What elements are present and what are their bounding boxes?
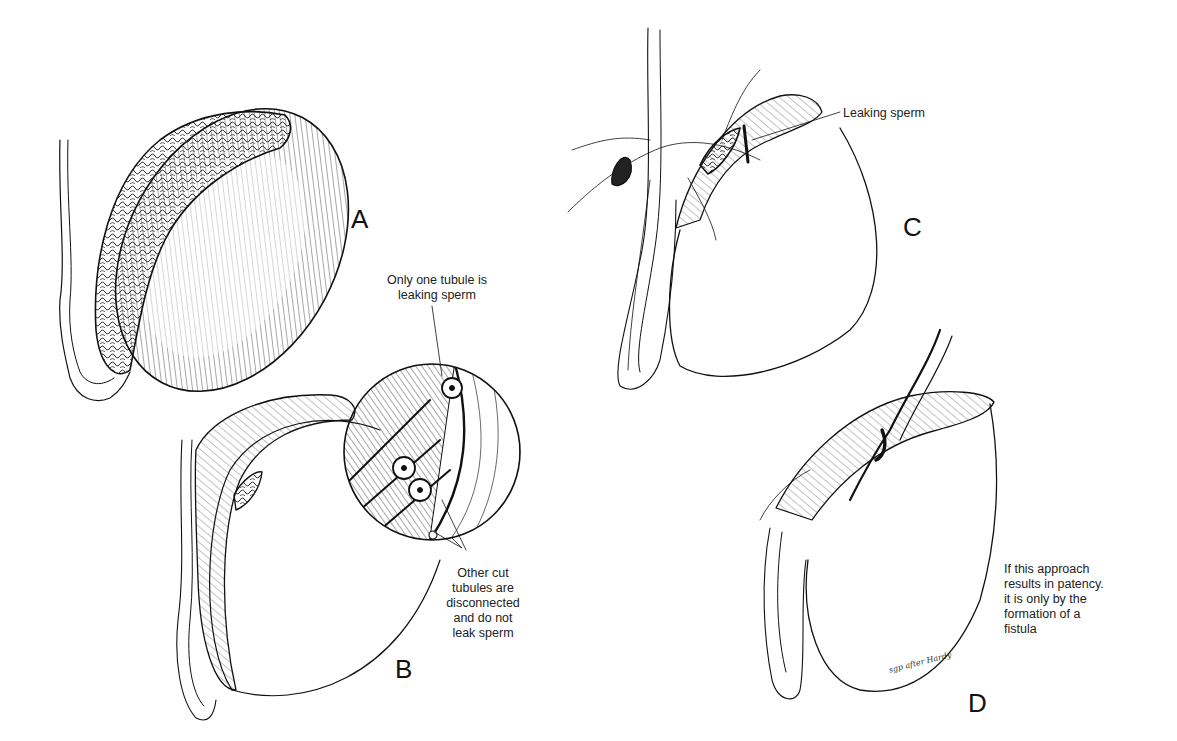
callout-leaking-sperm: Leaking sperm: [843, 106, 925, 121]
illustration-canvas: [0, 0, 1177, 741]
panel-a-drawing: [60, 68, 395, 431]
callout-one-tubule-leaking: Only one tubule is leaking sperm: [367, 273, 507, 303]
callout-other-tubules-disconnected: Other cut tubules are disconnected and d…: [428, 566, 538, 641]
panel-label-a: A: [351, 206, 368, 232]
panel-label-d: D: [968, 690, 987, 716]
caption-fistula: If this approach results in patency. it …: [1004, 562, 1104, 637]
panel-label-b: B: [395, 656, 412, 682]
panel-label-c: C: [903, 214, 922, 240]
panel-c-drawing: [568, 28, 877, 389]
panel-d-drawing: [760, 330, 997, 699]
